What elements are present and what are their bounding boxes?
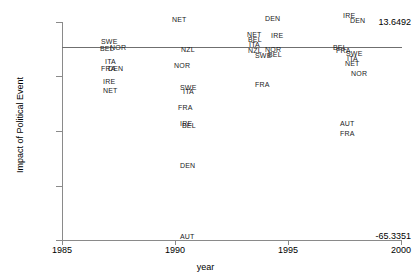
x-axis-label-2000: 2000 — [381, 246, 416, 255]
data-point-label: NOR — [110, 44, 126, 51]
data-point-label: DEN — [265, 15, 280, 22]
data-point-label: DEN — [108, 65, 123, 72]
y-tick-2 — [56, 131, 62, 132]
data-point-label: DEN — [350, 17, 365, 24]
x-axis-label-1995: 1995 — [268, 246, 308, 255]
x-axis-line — [62, 240, 402, 241]
data-point-label: NOR — [174, 62, 190, 69]
data-point-label: IRE — [271, 32, 283, 39]
data-point-label: AUT — [340, 120, 355, 127]
data-point-label: FRA — [340, 130, 355, 137]
data-point-label: ITA — [183, 88, 194, 95]
data-point-label: NET — [345, 60, 360, 67]
data-point-label: ITA — [105, 58, 116, 65]
data-point-label: IRE — [103, 78, 115, 85]
data-point-label: BEL — [182, 122, 196, 129]
data-point-label: FRA — [178, 104, 193, 111]
y-tick-3 — [56, 186, 62, 187]
data-point-label: FRA — [255, 81, 270, 88]
data-point-label: NZL — [181, 46, 195, 53]
data-point-label: BEL — [268, 51, 282, 58]
data-point-label: DEN — [180, 162, 195, 169]
y-axis-title: Impact of Political Event — [15, 35, 25, 215]
data-point-label: NET — [172, 16, 187, 23]
x-axis-label-1985: 1985 — [42, 246, 82, 255]
x-axis-label-1990: 1990 — [155, 246, 195, 255]
y-tick-1 — [56, 76, 62, 77]
x-axis-title: year — [0, 262, 411, 272]
y-axis-min-label: -65.3351 — [353, 232, 411, 241]
y-axis-line — [62, 22, 63, 240]
data-point-label: AUT — [180, 233, 195, 240]
y-tick-0 — [56, 22, 62, 23]
data-point-label: NET — [103, 87, 118, 94]
data-point-label: NOR — [351, 70, 367, 77]
